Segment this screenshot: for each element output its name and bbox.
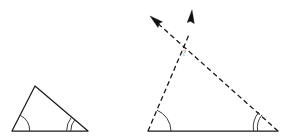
- unknown-angle-label: ?: [182, 48, 186, 58]
- angle-arc-inner: [257, 115, 262, 131]
- large-triangle-angle-mark-bottom-right: [253, 112, 262, 131]
- small-triangle-outline: [12, 86, 88, 131]
- angle-arc-single: [20, 115, 30, 131]
- large-triangle-right-side-ray: [155, 21, 279, 132]
- geometry-figure-canvas: ?: [0, 0, 290, 139]
- angle-arc-inner: [71, 120, 75, 131]
- ray-upper-right-arrowhead-icon: [187, 10, 194, 24]
- large-triangle: ?: [148, 10, 278, 131]
- small-triangle: [12, 86, 88, 131]
- angle-arc-single: [157, 110, 171, 131]
- small-triangle-angle-mark-bottom-left: [20, 115, 30, 131]
- large-triangle-angle-mark-bottom-left: [157, 110, 171, 131]
- figure-svg: ?: [0, 0, 290, 139]
